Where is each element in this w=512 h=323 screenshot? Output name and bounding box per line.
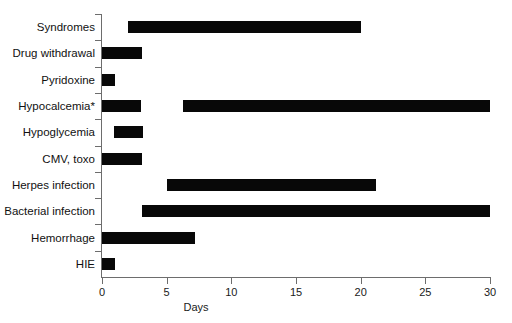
- chart-row: Hemorrhage: [0, 224, 512, 250]
- bar-segment: [102, 100, 141, 112]
- category-label: Herpes infection: [12, 178, 95, 191]
- bar-segment: [102, 232, 195, 244]
- x-axis-tick: [167, 278, 168, 284]
- chart-row: CMV, toxo: [0, 146, 512, 172]
- bar-segment: [114, 126, 144, 138]
- bar-segment: [102, 74, 115, 86]
- bar-segment: [102, 258, 115, 270]
- category-label: Pyridoxine: [41, 73, 95, 86]
- x-axis-tick-label: 30: [484, 286, 496, 298]
- x-axis-tick-label: 0: [99, 286, 105, 298]
- x-axis-title: Days: [183, 301, 208, 313]
- chart-row: Syndromes: [0, 14, 512, 40]
- category-label: Bacterial infection: [4, 205, 95, 218]
- bar-segment: [142, 205, 490, 217]
- category-label: Syndromes: [37, 21, 95, 34]
- x-axis-tick: [490, 278, 491, 284]
- x-axis-tick-label: 10: [225, 286, 237, 298]
- bar-segment: [102, 47, 142, 59]
- x-axis-tick: [296, 278, 297, 284]
- category-label: HIE: [76, 257, 95, 270]
- x-axis-title-wrap: Days: [0, 301, 512, 313]
- timing-bar-chart: SyndromesDrug withdrawalPyridoxineHypoca…: [0, 0, 512, 323]
- x-axis-tick-label: 15: [290, 286, 302, 298]
- category-label: Hemorrhage: [31, 231, 95, 244]
- chart-row: HIE: [0, 251, 512, 277]
- category-label: Hypocalcemia*: [18, 100, 95, 113]
- category-label: Drug withdrawal: [13, 47, 95, 60]
- category-label: Hypoglycemia: [23, 126, 95, 139]
- x-axis-tick: [425, 278, 426, 284]
- x-axis-tick-label: 20: [355, 286, 367, 298]
- chart-row: Hypoglycemia: [0, 119, 512, 145]
- chart-row: Hypocalcemia*: [0, 93, 512, 119]
- chart-row: Pyridoxine: [0, 67, 512, 93]
- chart-row: Drug withdrawal: [0, 40, 512, 66]
- bar-segment: [167, 179, 377, 191]
- x-axis-tick: [102, 278, 103, 284]
- bar-segment: [128, 21, 361, 33]
- chart-row: Bacterial infection: [0, 198, 512, 224]
- bar-segment: [102, 153, 142, 165]
- bar-segment: [183, 100, 490, 112]
- x-axis-tick-label: 5: [164, 286, 170, 298]
- category-label: CMV, toxo: [42, 152, 95, 165]
- x-axis-tick-label: 25: [419, 286, 431, 298]
- chart-row: Herpes infection: [0, 172, 512, 198]
- x-axis-tick: [361, 278, 362, 284]
- x-axis-tick: [231, 278, 232, 284]
